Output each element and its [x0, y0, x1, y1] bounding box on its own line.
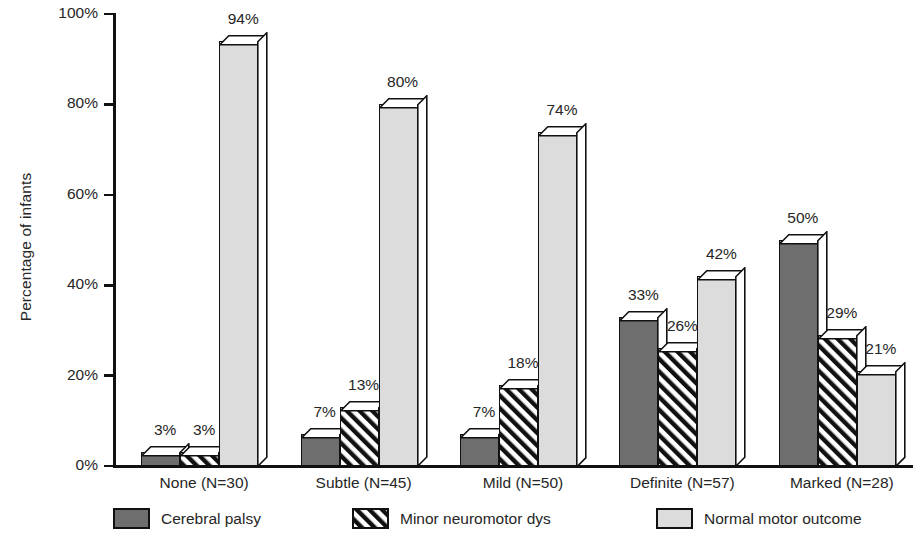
bar-side-face	[576, 123, 587, 468]
bar-side-face	[735, 267, 746, 468]
bar-value-label: 3%	[154, 421, 176, 439]
plot-area	[116, 14, 913, 466]
bar-value-label: 29%	[826, 304, 857, 322]
y-axis-tick	[104, 465, 116, 468]
legend-item: Minor neuromotor dys	[352, 508, 551, 529]
bar	[301, 434, 340, 466]
bar-front-face	[619, 317, 658, 466]
bar-value-label: 42%	[706, 245, 737, 263]
legend-label: Minor neuromotor dys	[400, 511, 551, 527]
y-axis-tick	[104, 103, 116, 106]
bar-front-face	[379, 104, 418, 466]
y-axis-tick-label: 0%	[28, 456, 98, 474]
bar	[658, 348, 697, 466]
legend-label: Normal motor outcome	[704, 511, 862, 527]
bar-value-label: 7%	[473, 403, 495, 421]
x-axis-category-label: Marked (N=28)	[790, 474, 894, 492]
bar	[499, 385, 538, 466]
y-axis-tick-label: 60%	[28, 185, 98, 203]
y-axis-tick-label: 100%	[28, 4, 98, 22]
bar	[697, 276, 736, 466]
bar-value-label: 74%	[546, 101, 577, 119]
bar-value-label: 50%	[787, 209, 818, 227]
y-axis-tick	[104, 374, 116, 377]
bar-value-label: 13%	[348, 376, 379, 394]
x-axis-category-label: Definite (N=57)	[630, 474, 735, 492]
x-axis-category-label: None (N=30)	[160, 474, 249, 492]
bar-value-label: 21%	[865, 340, 896, 358]
legend-label: Cerebral palsy	[161, 511, 261, 527]
bar	[779, 240, 818, 466]
bar-value-label: 3%	[193, 421, 215, 439]
x-axis-category-label: Subtle (N=45)	[316, 474, 412, 492]
bar-value-label: 18%	[507, 354, 538, 372]
bar	[219, 41, 258, 466]
y-axis-title: Percentage of infants	[17, 137, 35, 357]
bar	[619, 317, 658, 466]
bar-front-face	[219, 41, 258, 466]
bar-front-face	[499, 385, 538, 466]
bar-value-label: 7%	[313, 403, 335, 421]
bar-value-label: 33%	[628, 286, 659, 304]
legend-item: Normal motor outcome	[656, 508, 862, 529]
bar	[141, 452, 180, 466]
y-axis-tick-label: 80%	[28, 94, 98, 112]
bar	[538, 132, 577, 466]
x-axis-category-label: Mild (N=50)	[483, 474, 564, 492]
bar	[180, 452, 219, 466]
bar-front-face	[538, 132, 577, 466]
bar-value-label: 26%	[667, 317, 698, 335]
bar-front-face	[818, 335, 857, 466]
bar-side-face	[417, 95, 428, 468]
y-axis-tick	[104, 13, 116, 16]
bar-front-face	[658, 348, 697, 466]
bar-side-face	[895, 362, 906, 468]
legend-swatch-icon	[352, 508, 389, 529]
bar	[818, 335, 857, 466]
legend-swatch-icon	[113, 508, 150, 529]
bar-value-label: 94%	[228, 10, 259, 28]
y-axis-tick	[104, 284, 116, 287]
chart-figure: Percentage of infants 0%20%40%60%80%100%…	[0, 0, 915, 546]
bar-front-face	[779, 240, 818, 466]
y-axis-tick-label: 40%	[28, 275, 98, 293]
y-axis-tick	[104, 194, 116, 197]
bar-side-face	[257, 32, 268, 468]
bar	[379, 104, 418, 466]
legend-item: Cerebral palsy	[113, 508, 261, 529]
chart-legend: Cerebral palsyMinor neuromotor dysNormal…	[0, 508, 915, 542]
legend-swatch-icon	[656, 508, 693, 529]
bar-front-face	[697, 276, 736, 466]
bar	[857, 371, 896, 466]
y-axis-tick-label: 20%	[28, 366, 98, 384]
bar-front-face	[340, 407, 379, 466]
bar-front-face	[857, 371, 896, 466]
bar	[460, 434, 499, 466]
bar-value-label: 80%	[387, 73, 418, 91]
bar	[340, 407, 379, 466]
